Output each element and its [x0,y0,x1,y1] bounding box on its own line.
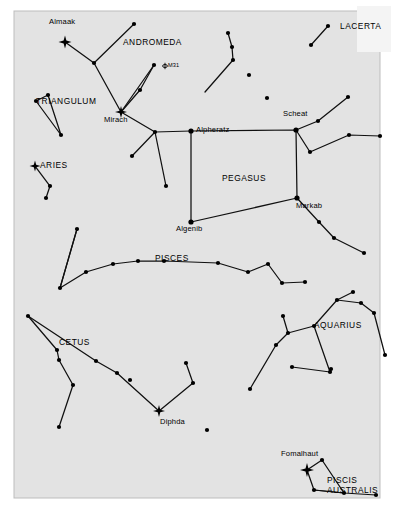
star-marker [362,251,366,255]
star-marker [316,119,320,123]
star-marker [274,343,278,347]
star-marker [293,127,298,132]
star-marker [290,365,294,369]
star-marker [226,31,230,35]
star-marker [136,259,140,263]
star-marker [247,73,251,77]
star-label-markab: Markab [296,201,322,210]
star-label-algenib: Algenib [176,224,202,233]
star-label-alpheratz: Alpheratz [196,125,229,134]
star-label-mirach: Mirach [104,115,128,124]
constellation-label-lacerta: LACERTA [340,21,381,31]
constellation-label-australis: AUSTRALIS [327,485,378,495]
star-marker [230,45,234,49]
star-marker [132,22,136,26]
star-marker [372,311,376,315]
star-label-almaak: Almaak [49,17,75,26]
star-marker [115,371,119,375]
star-marker [346,95,350,99]
star-marker [128,378,132,382]
constellation-label-andromeda: ANDROMEDA [123,37,182,47]
star-marker [286,331,290,335]
star-marker [308,150,312,154]
star-marker [58,286,62,290]
star-marker [111,262,115,266]
star-marker [303,280,307,284]
star-marker [48,184,52,188]
constellation-label-piscis: PISCIS [327,475,357,485]
star-marker [191,381,195,385]
star-marker [205,428,209,432]
star-marker [44,196,48,200]
star-marker [130,154,134,158]
star-marker [332,236,336,240]
star-label-scheat: Scheat [283,109,308,118]
constellation-label-triangulum: TRIANGULUM [36,96,96,106]
star-marker [184,361,188,365]
star-marker [84,270,88,274]
star-marker [328,370,332,374]
star-marker [216,261,220,265]
constellation-label-pegasus: PEGASUS [222,173,266,183]
star-marker [317,220,321,224]
star-marker [71,383,75,387]
star-marker [335,298,339,302]
star-marker [92,61,96,65]
star-marker [152,63,156,67]
constellation-label-pisces: PISCES [155,253,189,263]
sky-background [14,11,380,498]
star-marker [281,314,285,318]
star-marker [326,24,330,28]
star-marker [294,195,299,200]
object-label-m31: M31 [168,62,179,68]
star-marker [94,359,98,363]
star-marker [231,58,235,62]
star-marker [57,425,61,429]
constellation-label-cetus: CETUS [59,337,90,347]
star-label-fomalhaut: Fomalhaut [281,449,319,458]
constellation-label-aries: ARIES [40,160,68,170]
star-marker [57,358,61,362]
star-marker [164,184,168,188]
star-marker [359,301,363,305]
star-marker [59,133,63,137]
star-marker [246,270,250,274]
star-marker [153,130,157,134]
sky-map-canvas: Almaak ANDROMEDA LACERTA M31 TRIANGULUM … [0,0,398,520]
star-marker [347,133,351,137]
star-marker [248,387,252,391]
star-marker [55,348,59,352]
star-marker [188,128,193,133]
star-marker [26,314,30,318]
star-marker [265,96,269,100]
star-marker [75,227,79,231]
star-marker [378,134,382,138]
star-marker [266,262,270,266]
star-chart-figure: Almaak ANDROMEDA LACERTA M31 TRIANGULUM … [0,0,398,520]
star-marker [312,488,316,492]
star-label-diphda: Diphda [160,417,186,426]
star-marker [383,353,387,357]
star-marker [280,281,284,285]
star-marker [320,458,324,462]
star-marker [351,290,355,294]
star-marker [309,43,313,47]
constellation-label-aquarius: AQUARIUS [314,320,362,330]
star-marker [138,88,142,92]
